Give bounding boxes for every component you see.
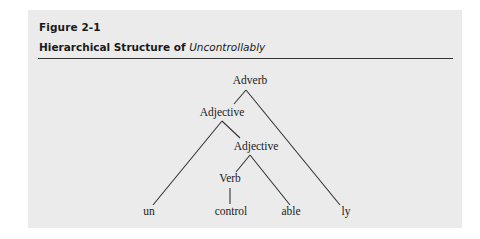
edge-adjective-verb [236, 155, 250, 172]
leaf-able: able [281, 205, 300, 217]
edge-adjective-able [250, 155, 290, 205]
node-adjective-inner: Adjective [234, 140, 279, 152]
leaf-control: control [215, 205, 248, 217]
edge-adjective-adjective [222, 121, 240, 138]
edge-adjective-un [153, 121, 222, 205]
leaf-un: un [143, 205, 155, 217]
edge-adverb-adjective [234, 90, 246, 104]
node-verb: Verb [219, 172, 241, 184]
leaf-ly: ly [342, 205, 351, 217]
tree-edges [0, 0, 480, 239]
node-adverb: Adverb [233, 74, 268, 86]
node-adjective-outer: Adjective [200, 106, 245, 118]
